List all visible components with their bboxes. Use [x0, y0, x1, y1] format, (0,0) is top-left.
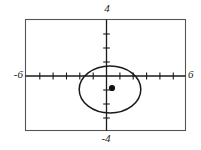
x-max-label: 6 [188, 69, 200, 80]
viewing-window-border [26, 20, 186, 131]
y-max-label: 4 [99, 3, 115, 14]
y-min-label: -4 [95, 133, 117, 144]
graph-figure: 4 -4 -6 6 [0, 0, 201, 150]
x-min-label: -6 [3, 69, 23, 80]
center-point-marker [109, 85, 115, 91]
plot-canvas [0, 0, 201, 150]
